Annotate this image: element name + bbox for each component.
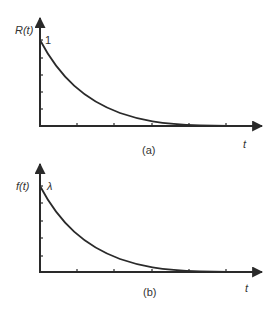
y-intercept-label: λ bbox=[46, 180, 52, 192]
y-axis-label: R(t) bbox=[15, 24, 34, 36]
x-axis-label: t bbox=[245, 282, 249, 294]
panel-b: f(t) λ t (b) bbox=[16, 164, 262, 298]
reliability-curve bbox=[40, 40, 228, 126]
y-intercept-label: 1 bbox=[45, 34, 51, 46]
y-axis-label: f(t) bbox=[16, 180, 30, 192]
panel-a: R(t) 1 t (a) bbox=[15, 18, 262, 156]
panel-caption: (a) bbox=[142, 144, 155, 156]
figure: R(t) 1 t (a) f(t) λ t (b) bbox=[0, 0, 278, 311]
density-curve bbox=[40, 186, 228, 272]
panel-caption: (b) bbox=[143, 286, 156, 298]
x-axis-label: t bbox=[243, 138, 247, 150]
